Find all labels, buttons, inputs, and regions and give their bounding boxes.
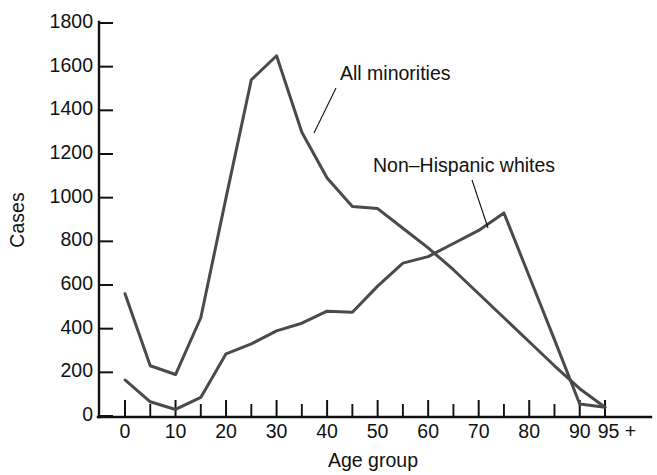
annotation-leader-line-1: [472, 180, 488, 228]
x-tick-label-10: 10: [165, 420, 187, 442]
x-tick-label-0: 0: [120, 420, 131, 442]
x-axis-ticks: [125, 400, 605, 417]
y-tick-label-0: 0: [82, 403, 93, 425]
x-tick-label-70: 70: [468, 420, 490, 442]
data-series-group: [125, 56, 605, 410]
x-axis-title: Age group: [328, 449, 418, 471]
series-line-non-hispanic-whites: [125, 213, 605, 410]
x-tick-label-20: 20: [215, 420, 237, 442]
x-tick-label-80: 80: [518, 420, 540, 442]
x-tick-label-50: 50: [367, 420, 389, 442]
x-tick-label-90: 90: [569, 420, 591, 442]
x-tick-label-30: 30: [266, 420, 288, 442]
x-axis-tick-labels: 010203040506070809095 +: [120, 420, 637, 442]
y-tick-label-600: 600: [60, 272, 93, 294]
x-tick-label-95: 95 +: [598, 420, 637, 442]
y-tick-label-1600: 1600: [50, 54, 94, 76]
annotation-leader-line-0: [314, 88, 336, 133]
y-axis-title: Cases: [6, 192, 28, 248]
annotation-label-all-minorities: All minorities: [340, 62, 451, 84]
y-tick-label-1000: 1000: [50, 185, 94, 207]
cases-by-age-group-chart: 020040060080010001200140016001800 010203…: [0, 0, 657, 475]
x-tick-label-40: 40: [316, 420, 338, 442]
y-tick-label-1200: 1200: [50, 141, 94, 163]
y-tick-label-200: 200: [60, 359, 93, 381]
x-tick-label-60: 60: [417, 420, 439, 442]
series-line-all-minorities: [125, 56, 605, 408]
y-axis-tick-labels: 020040060080010001200140016001800: [50, 10, 94, 425]
y-tick-label-1800: 1800: [50, 10, 94, 32]
annotation-label-non-hispanic-whites: Non–Hispanic whites: [373, 154, 555, 176]
y-tick-label-1400: 1400: [50, 97, 94, 119]
y-tick-label-800: 800: [60, 228, 93, 250]
y-axis-ticks: [99, 23, 113, 416]
y-tick-label-400: 400: [60, 316, 93, 338]
